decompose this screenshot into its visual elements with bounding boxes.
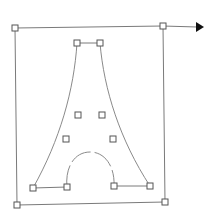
quad-bottom-edge (17, 202, 165, 205)
tower-base-left (33, 187, 67, 188)
tower-handle-bottom-inner-right[interactable] (111, 183, 117, 189)
quad-top-edge (15, 26, 163, 28)
quad-handle-bottom-right[interactable] (162, 199, 168, 205)
warp-diagram (0, 0, 213, 220)
quad-handle-top-right[interactable] (160, 23, 166, 29)
quad-left-edge (15, 28, 17, 205)
tower-handle-bottom-inner-left[interactable] (64, 184, 70, 190)
inner-handle-2[interactable] (99, 112, 105, 118)
arrow-head-icon[interactable] (196, 22, 204, 32)
inner-handle-1[interactable] (75, 112, 81, 118)
quad-right-edge (163, 26, 165, 202)
direction-arrow-line (163, 26, 197, 27)
tower-right-curve (100, 43, 150, 186)
inner-handle-4[interactable] (110, 136, 116, 142)
tower-handle-top-right[interactable] (97, 40, 103, 46)
quad-handle-top-left[interactable] (12, 25, 18, 31)
tower-handle-bottom-outer-right[interactable] (147, 183, 153, 189)
quad-handle-bottom-left[interactable] (14, 202, 20, 208)
tower-handle-bottom-outer-left[interactable] (30, 185, 36, 191)
tower-arch (67, 152, 114, 187)
inner-handle-3[interactable] (63, 136, 69, 142)
tower-left-curve (33, 43, 77, 188)
tower-handle-top-left[interactable] (74, 40, 80, 46)
